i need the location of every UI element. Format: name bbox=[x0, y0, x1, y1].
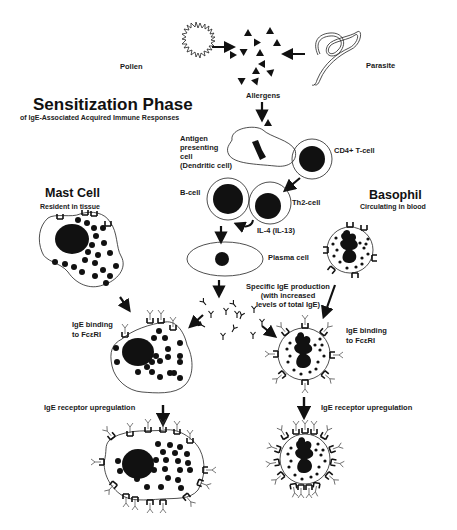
th2-cell-label: Th2-cell bbox=[292, 198, 320, 207]
apc-label-line1: Antigen bbox=[180, 134, 208, 143]
page-title: Sensitization Phase bbox=[33, 95, 193, 115]
mast-ige-binding-line2: to FcεRI bbox=[72, 330, 101, 339]
parasite-icon bbox=[312, 31, 361, 85]
basophil-upregulation-label: IgE receptor upregulation bbox=[321, 403, 412, 412]
apc-label-line2: presenting bbox=[180, 143, 218, 152]
b-cell bbox=[207, 178, 249, 220]
basophil-subtitle: Circulating in blood bbox=[360, 203, 426, 210]
cd4-t-cell-label: CD4+ T-cell bbox=[334, 146, 375, 155]
plasma-cell bbox=[187, 242, 263, 276]
mast-cell-ige-bound bbox=[111, 310, 192, 393]
basophil-initial bbox=[323, 222, 377, 278]
arrow-ige-to-basophil bbox=[262, 326, 272, 334]
allergens-label: Allergens bbox=[246, 91, 280, 100]
basophil-ige-binding-line2: to FcεRI bbox=[346, 336, 375, 345]
arrow-cd4-to-th2 bbox=[288, 178, 300, 188]
ige-production-line2: (with increased bbox=[233, 291, 343, 300]
th2-cell bbox=[249, 182, 291, 224]
sensitization-diagram bbox=[0, 0, 457, 530]
apc-label-line4: (Dendritic cell) bbox=[180, 161, 232, 170]
page-subtitle: of IgE-Associated Acquired Immune Respon… bbox=[20, 114, 179, 121]
cd4-t-cell bbox=[292, 139, 332, 179]
ige-production-line1: Specific IgE production bbox=[233, 282, 343, 291]
mast-upregulation-label: IgE receptor upregulation bbox=[44, 403, 135, 412]
allergens-icon bbox=[230, 27, 281, 126]
pollen-label: Pollen bbox=[120, 62, 143, 71]
arrow-mast-to-binding bbox=[120, 297, 127, 307]
il4-label: IL-4 (IL-13) bbox=[257, 226, 295, 235]
mast-cell-initial bbox=[39, 210, 123, 287]
apc-label-line3: cell bbox=[180, 152, 193, 161]
parasite-label: Parasite bbox=[366, 61, 395, 70]
mast-cell-subtitle: Resident in tissue bbox=[40, 203, 100, 210]
pollen-icon bbox=[182, 22, 215, 58]
b-cell-label: B-cell bbox=[180, 188, 200, 197]
dendritic-cell bbox=[227, 127, 295, 166]
basophil-ige-binding-line1: IgE binding bbox=[346, 326, 387, 335]
basophil-upregulated bbox=[266, 420, 345, 498]
plasma-cell-label: Plasma cell bbox=[268, 253, 309, 262]
basophil-title: Basophil bbox=[369, 188, 422, 202]
mast-ige-binding-line1: IgE binding bbox=[72, 320, 113, 329]
mast-cell-upregulated bbox=[91, 419, 216, 513]
mast-cell-title: Mast Cell bbox=[45, 186, 100, 200]
basophil-ige-bound bbox=[265, 315, 343, 393]
ige-production-line3: levels of total IgE) bbox=[233, 300, 343, 309]
arrow-ige-to-mast bbox=[193, 315, 203, 324]
arrow-il4-to-bcell bbox=[239, 220, 253, 226]
